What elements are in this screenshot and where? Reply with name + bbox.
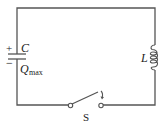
- switch-label: S: [83, 111, 89, 123]
- switch-blade[interactable]: [72, 92, 98, 104]
- switch-arrowhead-icon: [101, 97, 105, 100]
- capacitor-charge-label: Q: [20, 62, 29, 76]
- wire-right-bottom: [103, 70, 155, 105]
- inductor-coil: [150, 45, 157, 70]
- capacitor-negative-sign: −: [6, 56, 13, 70]
- wire-left-top: [17, 8, 155, 54]
- switch-terminal-right: [99, 103, 103, 107]
- capacitor-charge-subscript: max: [29, 68, 43, 77]
- capacitor-label: C: [21, 41, 30, 55]
- inductor-label: L: [140, 51, 148, 65]
- lc-circuit-diagram: + − C Q max L S: [0, 0, 165, 131]
- capacitor-positive-sign: +: [6, 42, 12, 54]
